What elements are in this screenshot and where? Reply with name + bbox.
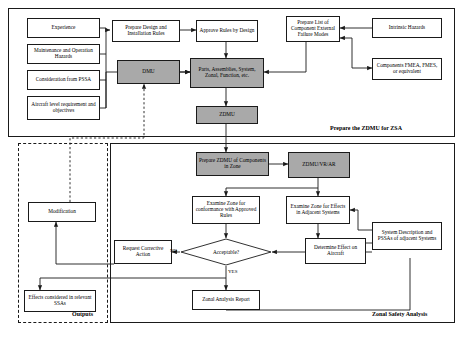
node-acceptable-decision[interactable]: Acceptable? — [180, 238, 272, 266]
node-experience[interactable]: Experience — [27, 18, 100, 38]
node-dmu[interactable]: DMU — [117, 60, 180, 84]
node-dmu-label: DMU — [142, 69, 154, 75]
edge-label-yes: YES — [228, 269, 237, 274]
node-zdmu-label: ZDMU — [219, 112, 235, 118]
node-modification[interactable]: Modification — [28, 202, 96, 222]
node-request-corrective-action[interactable]: Request Corrective Action — [114, 240, 172, 264]
node-zonal-analysis-report[interactable]: Zonal Analysis Report — [192, 290, 260, 310]
node-examine-conformance-label: Examine Zone for conformance with Approv… — [194, 201, 258, 218]
node-acceptable-label: Acceptable? — [180, 238, 272, 266]
node-modification-label: Modification — [48, 209, 76, 215]
node-effects-considered-relevant-ssas[interactable]: Effects considered in relevant SSAs — [24, 290, 96, 312]
node-examine-zone-for-effects-adjacent[interactable]: Examine Zone for Effects in Adjacent Sys… — [286, 196, 350, 224]
panel-zonal-safety-label: Zonal Safety Analysis — [372, 311, 427, 317]
node-intrinsic-hazards[interactable]: Intrinsic Hazards — [372, 18, 442, 38]
node-determine-effect-label: Determine Effect on Aircraft — [307, 245, 364, 256]
edge-label-no: NO — [170, 248, 177, 253]
node-aircraft-level-requirement[interactable]: Aircraft level requirement and objective… — [27, 96, 100, 120]
node-zdmu-vr-ar[interactable]: ZDMU/VR/AR — [288, 152, 350, 178]
node-approve-rules-label: Approve Rules by Design — [200, 28, 255, 34]
node-components-fmea-fmes[interactable]: Components FMEA, FMES, or equivalent — [372, 58, 442, 80]
node-parts-label: Parts, Assemblies, System, Zonal, Functi… — [192, 67, 262, 78]
node-zdmu-vr-ar-label: ZDMU/VR/AR — [302, 162, 335, 168]
node-experience-label: Experience — [52, 25, 76, 31]
node-maintenance-label: Maintenance and Operation Hazards — [29, 48, 98, 59]
node-zdmu[interactable]: ZDMU — [196, 106, 258, 124]
node-consideration-label: Consideration from PSSA — [36, 77, 91, 83]
node-effects-ssa-label: Effects considered in relevant SSAs — [26, 295, 94, 306]
node-fmea-label: Components FMEA, FMES, or equivalent — [374, 63, 440, 74]
node-parts-assemblies[interactable]: Parts, Assemblies, System, Zonal, Functi… — [190, 58, 264, 88]
diagram-canvas: Prepare the ZDMU for ZSA Zonal Safety An… — [0, 0, 463, 342]
node-prepare-design-installation-rules[interactable]: Prepare Design and Installation Rules — [112, 20, 180, 42]
node-prepare-list-component-external-failure-modes[interactable]: Prepare List of Component External Failu… — [286, 16, 340, 42]
node-zonal-report-label: Zonal Analysis Report — [202, 297, 250, 303]
node-maintenance-operation-hazards[interactable]: Maintenance and Operation Hazards — [27, 44, 100, 64]
node-prepare-list-label: Prepare List of Component External Failu… — [288, 20, 338, 37]
node-consideration-from-pssa[interactable]: Consideration from PSSA — [27, 70, 100, 90]
node-system-description-pssas[interactable]: System Description and PSSAs of adjacent… — [372, 222, 442, 250]
node-approve-rules-by-design[interactable]: Approve Rules by Design — [196, 20, 258, 42]
node-examine-zone-for-conformance[interactable]: Examine Zone for conformance with Approv… — [192, 196, 260, 224]
node-intrinsic-hazards-label: Intrinsic Hazards — [389, 25, 425, 31]
node-prepare-rules-label: Prepare Design and Installation Rules — [114, 25, 178, 36]
node-prepare-zdmu-comp-label: Prepare ZDMU of Components in Zone — [198, 158, 267, 169]
node-system-desc-label: System Description and PSSAs of adjacent… — [374, 230, 440, 241]
node-examine-adjacent-label: Examine Zone for Effects in Adjacent Sys… — [288, 204, 348, 215]
node-request-corrective-label: Request Corrective Action — [116, 246, 170, 257]
node-determine-effect-on-aircraft[interactable]: Determine Effect on Aircraft — [305, 238, 366, 264]
node-prepare-zdmu-of-components-in-zone[interactable]: Prepare ZDMU of Components in Zone — [196, 152, 269, 176]
panel-prepare-zdmu-label: Prepare the ZDMU for ZSA — [330, 125, 402, 131]
node-aircraft-level-label: Aircraft level requirement and objective… — [29, 102, 98, 113]
